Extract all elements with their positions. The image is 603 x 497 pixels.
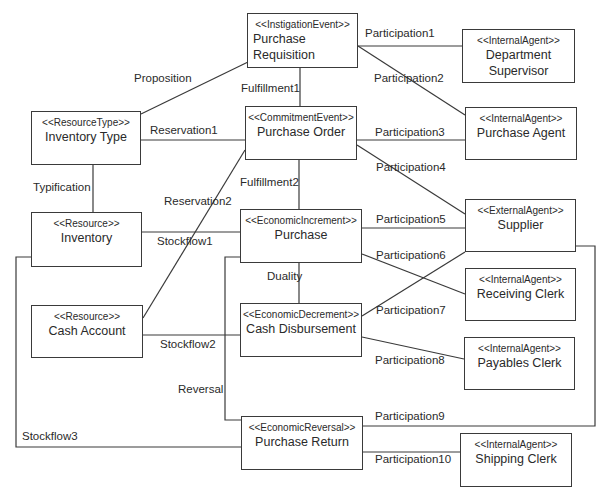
stereotype-label: <<EconomicReversal>>: [242, 422, 362, 434]
label-reservation2: Reservation2: [164, 195, 232, 208]
node-name: Supplier: [466, 217, 575, 233]
edge-reversal: [225, 257, 241, 420]
stereotype-label: <<CommitmentEvent>>: [246, 112, 356, 124]
stereotype-label: <<ExternalAgent>>: [466, 205, 575, 217]
node-name: Purchase: [241, 227, 361, 243]
label-participation8: Participation8: [375, 354, 445, 367]
label-stockflow1: Stockflow1: [157, 235, 213, 248]
node-shipping-clerk[interactable]: <<InternalAgent>> Shipping Clerk: [460, 433, 572, 487]
node-department-supervisor[interactable]: <<InternalAgent>> Department Supervisor: [462, 29, 575, 83]
label-participation4: Participation4: [376, 161, 446, 174]
stereotype-label: <<InstigationEvent>>: [248, 19, 357, 31]
stereotype-label: <<InternalAgent>>: [466, 274, 575, 286]
node-name-line2: Supervisor: [463, 63, 574, 79]
stereotype-label: <<InternalAgent>>: [465, 343, 574, 355]
node-inventory-type[interactable]: <<ResourceType>> Inventory Type: [31, 111, 141, 165]
stereotype-label: <<Resource>>: [32, 311, 142, 323]
label-fulfillment2: Fulfillment2: [240, 176, 299, 189]
label-reversal: Reversal: [178, 383, 223, 396]
stereotype-label: <<EconomicIncrement>>: [241, 215, 361, 227]
edge-reservation2: [143, 150, 245, 318]
stereotype-label: <<EconomicDecrement>>: [241, 309, 361, 321]
label-participation9: Participation9: [375, 410, 445, 423]
node-cash-account[interactable]: <<Resource>> Cash Account: [31, 305, 143, 358]
node-name: Purchase Return: [242, 434, 362, 450]
node-cash-disbursement[interactable]: <<EconomicDecrement>> Cash Disbursement: [240, 303, 362, 357]
node-name-line2: Requisition: [248, 47, 357, 63]
node-name: Purchase Agent: [466, 125, 576, 141]
edge-participation4: [357, 145, 465, 214]
label-fulfillment1: Fulfillment1: [241, 82, 300, 95]
node-name: Payables Clerk: [465, 355, 574, 371]
label-stockflow3: Stockflow3: [22, 430, 78, 443]
stereotype-label: <<InternalAgent>>: [461, 439, 571, 451]
stereotype-label: <<InternalAgent>>: [463, 35, 574, 47]
node-name: Cash Account: [32, 323, 142, 339]
node-name: Inventory Type: [32, 129, 140, 145]
node-purchase-requisition[interactable]: <<InstigationEvent>> Purchase Requisitio…: [247, 13, 358, 68]
node-name: Inventory: [32, 230, 141, 246]
label-participation6: Participation6: [376, 249, 446, 262]
node-name: Cash Disbursement: [241, 321, 361, 337]
label-participation10: Participation10: [375, 453, 451, 466]
label-participation1: Participation1: [365, 27, 435, 40]
edge-proposition: [141, 62, 248, 114]
node-name: Shipping Clerk: [461, 451, 571, 467]
label-duality: Duality: [267, 270, 302, 283]
label-participation7: Participation7: [376, 304, 446, 317]
node-name: Receiving Clerk: [466, 286, 575, 302]
node-supplier[interactable]: <<ExternalAgent>> Supplier: [465, 199, 576, 252]
node-inventory[interactable]: <<Resource>> Inventory: [31, 212, 142, 267]
node-name: Purchase: [248, 31, 357, 47]
node-name: Department: [463, 47, 574, 63]
rea-diagram-canvas: <<InstigationEvent>> Purchase Requisitio…: [0, 0, 603, 497]
label-participation2: Participation2: [374, 72, 444, 85]
node-name: Purchase Order: [246, 124, 356, 140]
label-stockflow2: Stockflow2: [160, 338, 216, 351]
node-purchase-order[interactable]: <<CommitmentEvent>> Purchase Order: [245, 106, 357, 160]
label-reservation1: Reservation1: [150, 124, 218, 137]
label-participation3: Participation3: [375, 126, 445, 139]
node-payables-clerk[interactable]: <<InternalAgent>> Payables Clerk: [464, 337, 575, 390]
label-typification: Typification: [33, 181, 91, 194]
label-proposition: Proposition: [134, 72, 192, 85]
node-purchase[interactable]: <<EconomicIncrement>> Purchase: [240, 209, 362, 263]
stereotype-label: <<Resource>>: [32, 218, 141, 230]
stereotype-label: <<InternalAgent>>: [466, 113, 576, 125]
stereotype-label: <<ResourceType>>: [32, 117, 140, 129]
node-purchase-return[interactable]: <<EconomicReversal>> Purchase Return: [241, 416, 363, 470]
label-participation5: Participation5: [376, 213, 446, 226]
node-purchase-agent[interactable]: <<InternalAgent>> Purchase Agent: [465, 107, 577, 160]
node-receiving-clerk[interactable]: <<InternalAgent>> Receiving Clerk: [465, 268, 576, 321]
